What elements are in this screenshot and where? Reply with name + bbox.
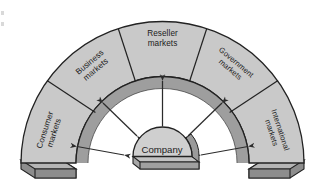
- arrow-government: [188, 103, 222, 136]
- diagram-canvas: Consumer markets Business markets Resell…: [0, 0, 325, 183]
- segment-label-reseller-line2: markets: [148, 39, 178, 48]
- company-label: Company: [141, 144, 182, 155]
- arrow-business: [103, 103, 137, 136]
- company-base-front: [140, 162, 199, 169]
- company-base-top: [133, 157, 199, 163]
- market-types-diagram: Consumer markets Business markets Resell…: [0, 0, 325, 183]
- segment-label-reseller-line1: Reseller: [147, 29, 178, 38]
- segment-label-reseller: Reseller markets: [147, 29, 178, 48]
- company-node: Company: [133, 127, 199, 169]
